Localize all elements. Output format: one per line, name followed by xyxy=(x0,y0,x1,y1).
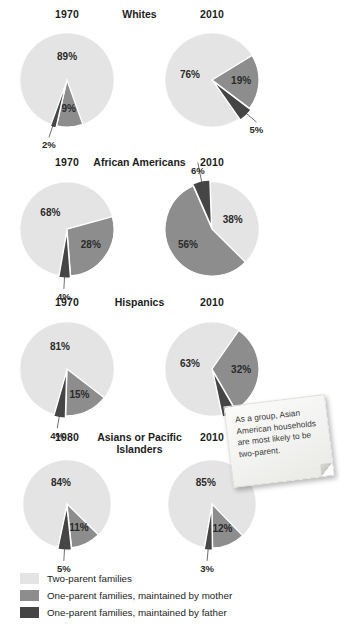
pie-whites-1970: 89%9%2% xyxy=(0,0,344,626)
pie-slice-mother xyxy=(212,56,259,109)
page-fold-corner xyxy=(320,463,333,476)
slice-value-two_parent: 85% xyxy=(196,477,216,488)
legend: Two-parent familiesOne-parent families, … xyxy=(20,570,320,621)
pie-slice-mother xyxy=(67,504,98,548)
slice-value-mother: 12% xyxy=(212,523,232,534)
slice-value-two_parent: 89% xyxy=(57,51,77,62)
slice-value-mother: 19% xyxy=(231,75,251,86)
slice-value-mother: 15% xyxy=(69,389,89,400)
year-label: 1970 xyxy=(32,8,102,20)
pie-slice-father xyxy=(204,506,212,550)
slice-value-two_parent: 38% xyxy=(223,214,243,225)
year-label: 1970 xyxy=(32,156,102,168)
pie-slice-two_parent xyxy=(210,182,259,262)
pie-slice-mother xyxy=(67,217,114,276)
slice-value-mother: 28% xyxy=(81,239,101,250)
label-leader-line xyxy=(49,112,58,137)
sticky-note-text: As a group, Asian American households ar… xyxy=(225,396,330,462)
label-leader-line xyxy=(57,402,62,428)
legend-item-mother: One-parent families, maintained by mothe… xyxy=(20,587,320,604)
pie-slice-father xyxy=(193,180,212,227)
pie-whites-2010: 76%19%5% xyxy=(0,0,344,626)
legend-item-father: One-parent families, maintained by fathe… xyxy=(20,604,320,621)
pie-african-americans-2010: 38%56%6% xyxy=(0,0,344,626)
pie-slice-mother xyxy=(212,504,243,548)
slice-value-mother: 56% xyxy=(178,239,198,250)
year-label: 2010 xyxy=(177,296,247,308)
label-leader-line xyxy=(64,536,66,561)
pie-slice-mother xyxy=(57,80,83,127)
legend-label: Two-parent families xyxy=(47,573,132,584)
pie-slice-two_parent xyxy=(165,33,252,127)
legend-item-two_parent: Two-parent families xyxy=(20,570,320,587)
slice-value-father: 2% xyxy=(42,139,56,150)
pie-slice-father xyxy=(58,506,72,550)
pie-slice-mother xyxy=(165,186,245,276)
slice-value-two_parent: 68% xyxy=(40,207,60,218)
pie-slice-mother xyxy=(66,369,105,416)
pie-slice-mother xyxy=(212,330,259,409)
label-leader-line xyxy=(236,104,257,122)
pie-slice-two_parent xyxy=(20,182,112,275)
year-label: 1980 xyxy=(32,431,102,443)
legend-label: One-parent families, maintained by fathe… xyxy=(47,607,227,618)
slice-value-two_parent: 81% xyxy=(50,341,70,352)
year-label: 2010 xyxy=(177,156,247,168)
label-leader-line xyxy=(207,536,209,561)
legend-swatch-mother xyxy=(20,590,39,601)
legend-swatch-two_parent xyxy=(20,573,39,584)
pie-slice-father xyxy=(54,371,67,418)
pie-asians-or-pacific-islanders-2010: 85%12%3% xyxy=(0,0,344,626)
pie-slice-two_parent xyxy=(165,322,239,416)
year-label: 2010 xyxy=(177,8,247,20)
pie-slice-two_parent xyxy=(20,33,114,124)
legend-label: One-parent families, maintained by mothe… xyxy=(47,590,232,601)
legend-swatch-father xyxy=(20,607,39,618)
slice-value-mother: 32% xyxy=(231,364,251,375)
slice-value-mother: 11% xyxy=(69,522,89,533)
pie-slice-two_parent xyxy=(23,460,111,547)
pie-hispanics-2010: 63%32%5% xyxy=(0,0,344,626)
pie-slice-father xyxy=(50,82,66,128)
pie-african-americans-1970: 68%28%4% xyxy=(0,0,344,626)
slice-value-mother: 9% xyxy=(62,103,77,114)
slice-value-two_parent: 63% xyxy=(180,358,200,369)
slice-value-two_parent: 76% xyxy=(180,69,200,80)
pie-chart-infographic: Whites197089%9%2%201076%19%5%African Ame… xyxy=(0,0,344,626)
sticky-note-annotation: As a group, Asian American households ar… xyxy=(223,394,334,488)
pie-asians-or-pacific-islanders-1980: 84%11%5% xyxy=(0,0,344,626)
slice-value-two_parent: 84% xyxy=(51,477,71,488)
pie-slice-father xyxy=(59,231,71,278)
pie-hispanics-1970: 81%15%4% xyxy=(0,0,344,626)
slice-value-father: 5% xyxy=(250,124,264,135)
pie-slice-two_parent xyxy=(20,322,114,414)
year-label: 1970 xyxy=(32,296,102,308)
label-leader-line xyxy=(64,263,65,289)
pie-slice-father xyxy=(214,82,252,121)
